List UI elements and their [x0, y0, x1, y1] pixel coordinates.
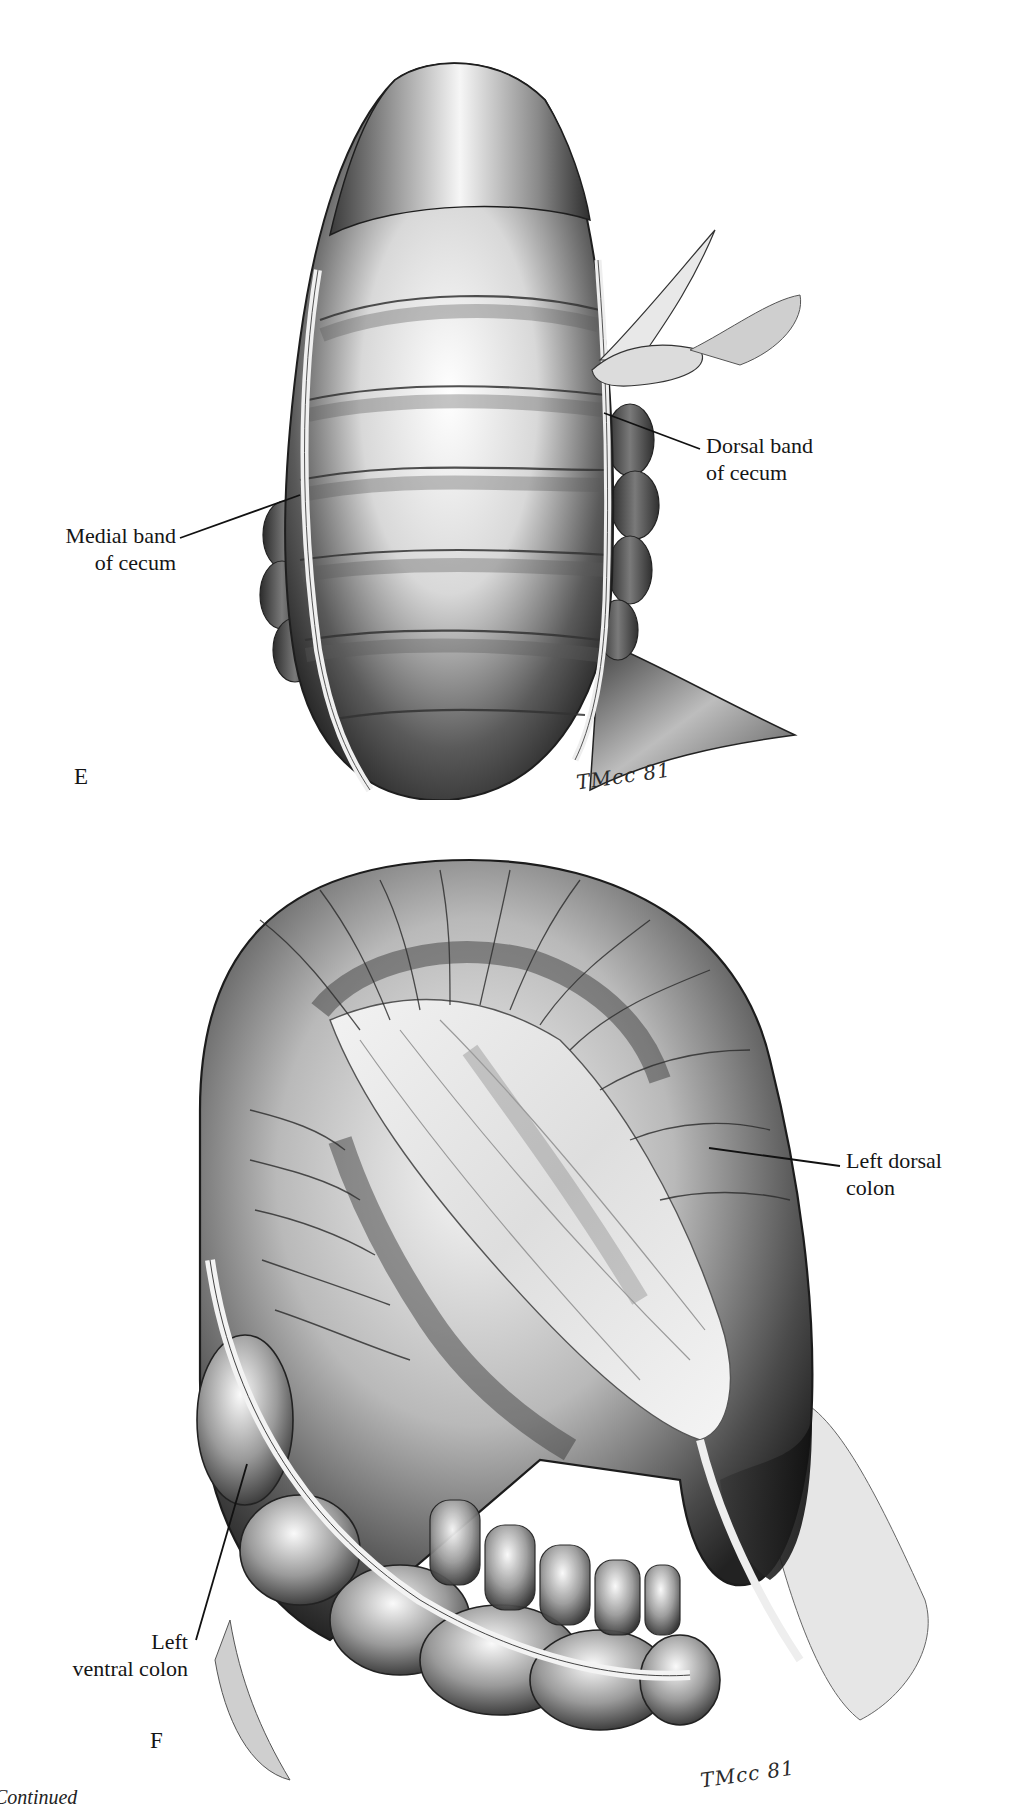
figure-e-cecum: Dorsal band of cecum Medial band of cecu…	[0, 0, 1010, 800]
label-dorsal-band-of-cecum: Dorsal band of cecum	[706, 432, 813, 486]
label-line-2: of cecum	[40, 549, 176, 576]
label-line-2: colon	[846, 1174, 942, 1201]
figure-f-left-colon: Left dorsal colon Left ventral colon F T…	[0, 820, 1010, 1801]
continued-caption: Continued	[0, 1786, 77, 1808]
label-line-1: Left dorsal	[846, 1147, 942, 1174]
label-line-1: Dorsal band	[706, 432, 813, 459]
label-medial-band-of-cecum: Medial band of cecum	[40, 522, 176, 576]
label-line-1: Medial band	[40, 522, 176, 549]
label-line-2: ventral colon	[40, 1655, 188, 1682]
label-left-dorsal-colon: Left dorsal colon	[846, 1147, 942, 1201]
label-left-ventral-colon: Left ventral colon	[40, 1628, 188, 1682]
panel-letter-f: F	[150, 1728, 163, 1754]
label-line-2: of cecum	[706, 459, 813, 486]
label-line-1: Left	[40, 1628, 188, 1655]
panel-letter-e: E	[74, 764, 88, 790]
cecum-illustration	[0, 0, 1010, 800]
